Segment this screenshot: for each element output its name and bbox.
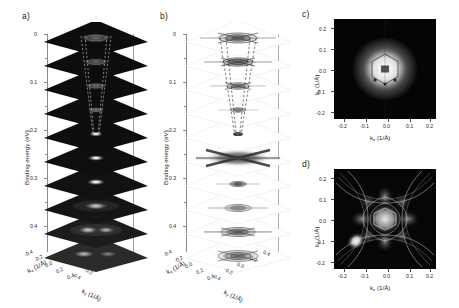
panel-c-y-unit: (1/Å)	[313, 75, 320, 90]
panel-a-xr-unit: (1/Å)	[86, 289, 103, 302]
panel-c-xaxis-title: kx (1/Å)	[370, 134, 390, 142]
panel-d-xtick	[388, 269, 389, 272]
panel-b-slice-6	[196, 149, 280, 167]
panel-a-ytick-label-4: 0.4	[30, 223, 37, 229]
panel-d-xtick-label-4: 0.2	[426, 273, 433, 279]
panel-b-xt-0: -0.4	[162, 248, 173, 258]
panel-b-xr-unit: (1/Å)	[228, 290, 245, 303]
panel-b-xaxis-right-title: ky (1/Å)	[223, 288, 245, 304]
panel-c-ytick-label-0: 0.2	[319, 26, 326, 32]
panel-c-xtick-label-0: -0.2	[338, 123, 347, 129]
panel-a-label: a)	[22, 11, 30, 21]
panel-b-ytick-label-0: 0	[173, 31, 176, 37]
panel-c-ytick-label-4: -0.2	[316, 110, 325, 116]
panel-d-map[interactable]	[334, 169, 436, 269]
panel-c-xtick	[366, 119, 367, 122]
panel-a: a) Binding energy (eV) 0 0.1 0.2 0.3 0.4	[0, 0, 150, 308]
panel-c-xtick	[344, 119, 345, 122]
panel-c-xtick	[388, 119, 389, 122]
panel-d-xtick-label-3: 0.1	[406, 273, 413, 279]
panel-d-xtick-label-2: 0.0	[383, 273, 390, 279]
panel-d-ytick-label-2: 0.0	[319, 218, 326, 224]
panel-b-ytick-label-2: 0.2	[169, 127, 176, 133]
panel-c-xtick-label-3: 0.1	[406, 123, 413, 129]
panel-c: c) ky (1/Å) 0.2 0.1 0.0 -0.1 -0.2	[298, 0, 459, 152]
panel-c-xtick-label-2: 0.0	[383, 123, 390, 129]
panel-d: d) ky (1/Å) 0.2 0.1 0.0 -0.1 -0.2	[298, 152, 459, 308]
panel-b-label: b)	[160, 11, 168, 21]
panel-d-ytick-label-1: 0.1	[319, 197, 326, 203]
panel-a-xt-0: -0.4	[23, 248, 34, 258]
panel-c-label: c)	[302, 9, 309, 19]
panel-c-xtick	[410, 119, 411, 122]
panel-c-x-unit: (1/Å)	[375, 134, 390, 141]
panel-c-ytick-label-1: 0.1	[319, 47, 326, 53]
panel-b-slice-stack	[180, 22, 292, 272]
panel-b-ytick-label-4: 0.4	[169, 223, 176, 229]
panel-d-ytick-label-3: -0.1	[316, 239, 325, 245]
panel-a-ytick-label-2: 0.2	[30, 127, 37, 133]
panel-d-ytick-label-0: 0.2	[319, 176, 326, 182]
panel-c-ytick-label-3: -0.1	[316, 89, 325, 95]
panel-d-ytick-label-4: -0.2	[316, 260, 325, 266]
panel-a-xaxis-right-title: ky (1/Å)	[81, 287, 103, 303]
panel-d-xaxis-title: kx (1/Å)	[370, 284, 390, 292]
panel-a-yaxis-title: Binding energy (eV)	[23, 130, 30, 185]
panel-d-x-unit: (1/Å)	[375, 284, 390, 291]
panel-d-xtick	[430, 269, 431, 272]
panel-b: b) Binding energy (eV) 0 0.1 0.2 0.3 0.4	[150, 0, 298, 308]
panel-a-slice-stack	[40, 22, 150, 272]
panel-b-yaxis-title: Binding energy (eV)	[162, 130, 169, 185]
panel-d-xtick-label-1: -0.1	[360, 273, 369, 279]
panel-d-xtick-label-0: -0.2	[338, 273, 347, 279]
panel-c-ytick-label-2: 0.0	[319, 68, 326, 74]
panel-c-xtick	[430, 119, 431, 122]
panel-c-xtick-label-1: -0.1	[360, 123, 369, 129]
panel-b-ytick-label-3: 0.3	[169, 175, 176, 181]
panel-d-xtick	[344, 269, 345, 272]
panel-d-label: d)	[302, 159, 310, 169]
panel-c-map[interactable]	[334, 19, 436, 119]
panel-a-ytick-label-3: 0.3	[30, 175, 37, 181]
panel-d-xtick	[410, 269, 411, 272]
panel-c-xtick-label-4: 0.2	[426, 123, 433, 129]
slice-1	[44, 22, 148, 56]
panel-a-ytick-label-1: 0.1	[30, 79, 37, 85]
panel-a-ytick-label-0: 0	[34, 31, 37, 37]
panel-b-ytick-label-1: 0.1	[169, 79, 176, 85]
panel-d-xtick	[366, 269, 367, 272]
